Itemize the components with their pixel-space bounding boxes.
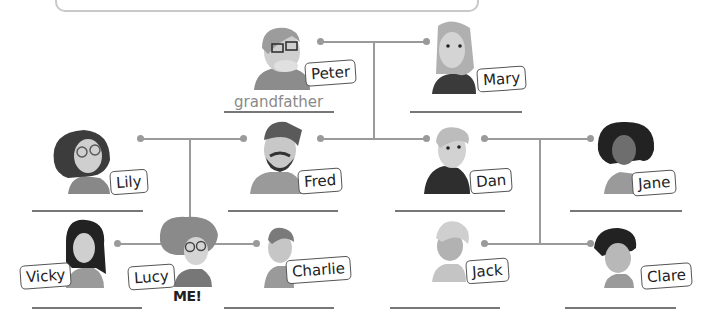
jane-answer-line[interactable] — [570, 210, 682, 212]
connector-dot — [317, 135, 324, 142]
dan-avatar-icon — [424, 124, 476, 194]
lily-name-label: Lily — [109, 169, 148, 196]
connector-dot — [114, 240, 121, 247]
clare-avatar-icon — [590, 226, 642, 288]
vicky-name-label: Vicky — [19, 262, 72, 290]
connector-dot — [137, 135, 144, 142]
lily-answer-line[interactable] — [32, 210, 143, 212]
vicky-answer-line[interactable] — [32, 307, 142, 309]
peter-answer-text: grandfather — [234, 93, 323, 111]
clare-name-label: Clare — [640, 262, 692, 289]
mary-avatar-icon — [432, 18, 482, 94]
jack-answer-line[interactable] — [390, 307, 500, 309]
connector-dan-jane-children — [539, 138, 541, 243]
connector-dot — [317, 38, 324, 45]
peter-avatar-icon — [248, 20, 314, 90]
peter-name-label: Peter — [304, 59, 357, 87]
instruction-box — [55, 0, 479, 12]
connector-dan-jane — [484, 138, 590, 140]
lucy-name-label: Lucy — [127, 263, 175, 290]
connector-fred-dan — [320, 138, 426, 140]
connector-dot — [253, 240, 260, 247]
fred-answer-line[interactable] — [228, 210, 338, 212]
mary-answer-line[interactable] — [410, 111, 522, 113]
jane-name-label: Jane — [631, 169, 677, 196]
dan-name-label: Dan — [469, 168, 513, 195]
fred-name-label: Fred — [297, 167, 343, 194]
connector-lily-fred — [140, 138, 243, 140]
mary-name-label: Mary — [476, 65, 527, 92]
connector-dot — [240, 135, 247, 142]
clare-answer-line[interactable] — [565, 307, 676, 309]
connector-dot — [481, 135, 488, 142]
connector-dot — [423, 38, 430, 45]
me-tag: ME! — [173, 288, 201, 304]
charlie-answer-line[interactable] — [224, 307, 334, 309]
dan-answer-line[interactable] — [395, 210, 505, 212]
connector-jack-clare — [484, 243, 590, 245]
peter-answer-line[interactable] — [224, 111, 334, 113]
jack-name-label: Jack — [465, 258, 509, 285]
connector-dot — [481, 240, 488, 247]
connector-dot — [587, 135, 594, 142]
charlie-name-label: Charlie — [285, 256, 351, 284]
connector-peter-mary-children — [373, 41, 375, 138]
